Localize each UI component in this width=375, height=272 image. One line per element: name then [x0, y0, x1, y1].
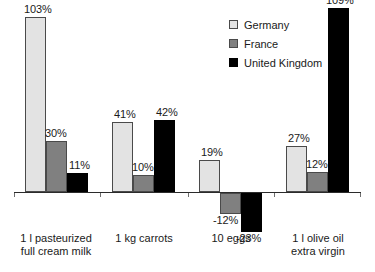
category-label-line1: 10 eggs: [183, 232, 279, 245]
legend-item-united-kingdom[interactable]: United Kingdom: [229, 55, 349, 70]
grouped-bar-chart: 103% 30% 11% 41% 10% 42% 19% -12% -23%: [0, 0, 375, 272]
bar-germany[interactable]: [286, 146, 307, 192]
category-label-eggs: 10 eggs: [183, 232, 279, 245]
bar-value-label: 27%: [288, 132, 310, 144]
legend-label: United Kingdom: [244, 57, 322, 69]
category-label-olive-oil: 1 l olive oil extra virgin: [270, 232, 366, 258]
bar-france[interactable]: [220, 193, 241, 214]
axis-tick: [274, 193, 275, 197]
bar-value-label: 10%: [132, 161, 154, 173]
bar-value-label: 19%: [201, 146, 223, 158]
bar-value-label: -12%: [213, 214, 238, 226]
category-label-line1: 1 l pasteurized: [8, 232, 104, 245]
legend-label: France: [244, 38, 278, 50]
bar-uk[interactable]: [154, 120, 175, 192]
axis-tick: [188, 193, 189, 197]
legend-swatch-icon: [229, 39, 238, 48]
bar-cluster: 41% 10% 42%: [112, 0, 174, 228]
legend-item-germany[interactable]: Germany: [229, 17, 349, 32]
bar-cluster: 103% 30% 11%: [25, 0, 87, 228]
bar-value-label: 12%: [306, 158, 328, 170]
bar-value-label: 42%: [156, 106, 178, 118]
bar-germany[interactable]: [199, 160, 220, 192]
legend-item-france[interactable]: France: [229, 36, 349, 51]
category-label-milk: 1 l pasteurized full cream milk: [8, 232, 104, 258]
bar-uk[interactable]: [241, 193, 262, 232]
bar-france[interactable]: [133, 175, 154, 192]
chart-legend: Germany France United Kingdom: [229, 17, 349, 74]
category-label-line2: full cream milk: [8, 245, 104, 258]
bar-value-label: 103%: [24, 3, 52, 15]
category-axis-labels: 1 l pasteurized full cream milk 1 kg car…: [0, 232, 375, 272]
category-label-line2: extra virgin: [270, 245, 366, 258]
axis-tick: [14, 193, 15, 197]
bar-france[interactable]: [307, 172, 328, 192]
bar-value-label: 30%: [45, 127, 67, 139]
category-label-carrots: 1 kg carrots: [96, 232, 192, 245]
legend-swatch-icon: [229, 20, 238, 29]
axis-tick: [100, 193, 101, 197]
axis-tick: [360, 193, 361, 197]
legend-swatch-icon: [229, 58, 238, 67]
category-label-line1: 1 l olive oil: [270, 232, 366, 245]
bar-value-label: 11%: [69, 159, 90, 171]
bar-germany[interactable]: [112, 122, 133, 192]
category-label-line1: 1 kg carrots: [96, 232, 192, 245]
bar-value-label: 41%: [114, 108, 136, 120]
legend-label: Germany: [244, 19, 289, 31]
bar-uk[interactable]: [67, 173, 88, 192]
bar-value-label: 109%: [326, 0, 354, 6]
bar-germany[interactable]: [25, 17, 46, 192]
bar-france[interactable]: [46, 141, 67, 192]
